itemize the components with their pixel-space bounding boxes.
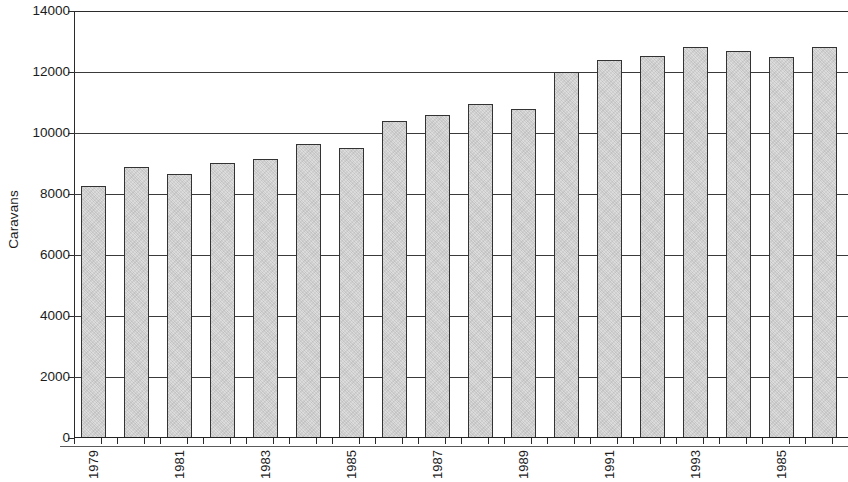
x-axis-tick-mark <box>273 438 274 444</box>
y-axis-title: Caravans <box>0 0 26 438</box>
x-axis-tick-label: 1985 <box>334 446 370 482</box>
bar <box>81 186 106 438</box>
x-axis-tick-label-text: 1989 <box>517 450 530 479</box>
x-axis-tick-marks <box>74 438 848 445</box>
x-axis-tick-label-text: 1985 <box>775 450 788 479</box>
bar <box>554 72 579 438</box>
bar <box>210 163 235 438</box>
bar <box>339 148 364 438</box>
x-axis-tick-mark <box>832 438 833 444</box>
bar <box>683 47 708 438</box>
plot-area <box>74 11 848 438</box>
x-axis-tick-mark <box>418 438 419 444</box>
bars <box>74 11 848 438</box>
x-axis-tick-label: 1991 <box>592 446 628 482</box>
y-axis-tick-label: 12000 <box>32 65 70 79</box>
x-axis-tick-mark <box>719 438 720 444</box>
x-axis-tick-mark <box>445 438 446 444</box>
bar-chart: Caravans 0200040006000800010000120001400… <box>0 0 848 482</box>
x-axis-tick-mark <box>203 438 204 444</box>
bar <box>812 47 837 438</box>
x-axis-tick-label-text: 1985 <box>345 450 358 479</box>
x-axis-tick-mark <box>160 438 161 444</box>
y-axis-tick-label: 14000 <box>32 4 70 18</box>
bar <box>597 60 622 438</box>
x-axis-tick-label-text: 1993 <box>689 450 702 479</box>
x-axis-tick-label-text: 1991 <box>603 450 616 479</box>
bar <box>769 57 794 438</box>
x-axis-tick-label: 1993 <box>678 446 714 482</box>
x-axis-tick-mark <box>144 438 145 444</box>
x-axis-tick-label-text: 1983 <box>259 450 272 479</box>
x-axis-tick-mark <box>402 438 403 444</box>
bar <box>382 121 407 438</box>
x-axis-tick-label-text: 1981 <box>173 450 186 479</box>
x-axis-tick-mark <box>789 438 790 444</box>
y-axis-tick-label: 10000 <box>32 126 70 140</box>
x-axis-tick-mark <box>633 438 634 444</box>
bar <box>511 109 536 438</box>
x-axis-tick-mark <box>547 438 548 444</box>
x-axis-tick-mark <box>187 438 188 444</box>
x-axis-tick-mark <box>660 438 661 444</box>
x-axis-tick-mark <box>531 438 532 444</box>
x-axis-tick-label-text: 1979 <box>87 450 100 479</box>
x-axis-tick-label: 1979 <box>76 446 112 482</box>
x-axis-tick-mark <box>74 438 75 444</box>
x-axis-tick-mark <box>316 438 317 444</box>
bar <box>124 167 149 438</box>
y-axis-tick-labels: 02000400060008000100001200014000 <box>24 0 70 482</box>
y-axis-tick-label: 8000 <box>40 187 70 201</box>
y-axis-tick-label: 6000 <box>40 248 70 262</box>
x-axis-tick-mark <box>590 438 591 444</box>
x-axis-tick-mark <box>117 438 118 444</box>
x-axis-tick-mark <box>617 438 618 444</box>
x-axis-tick-mark <box>461 438 462 444</box>
x-axis-tick-mark <box>746 438 747 444</box>
x-axis-tick-label: 1989 <box>506 446 542 482</box>
x-axis-tick-mark <box>676 438 677 444</box>
bar <box>640 56 665 438</box>
x-axis-tick-label: 1987 <box>420 446 456 482</box>
y-axis-title-label: Caravans <box>6 190 21 249</box>
x-axis-tick-mark <box>289 438 290 444</box>
x-axis-tick-mark <box>375 438 376 444</box>
x-axis-tick-label-text: 1987 <box>431 450 444 479</box>
x-axis-tick-mark <box>805 438 806 444</box>
x-axis-tick-labels: 197919811983198519871989199119931985 <box>74 446 848 482</box>
x-axis-tick-mark <box>574 438 575 444</box>
y-axis-tick-label: 4000 <box>40 309 70 323</box>
x-axis-tick-label: 1985 <box>764 446 800 482</box>
x-axis-tick-mark <box>230 438 231 444</box>
bar <box>468 104 493 438</box>
x-axis-tick-mark <box>359 438 360 444</box>
x-axis-tick-mark <box>762 438 763 444</box>
x-axis-tick-mark <box>504 438 505 444</box>
x-axis-tick-mark <box>703 438 704 444</box>
x-axis-tick-mark <box>332 438 333 444</box>
bar <box>296 144 321 438</box>
x-axis-tick-label: 1983 <box>248 446 284 482</box>
bar <box>167 174 192 438</box>
bar <box>253 159 278 438</box>
x-axis-tick-mark <box>246 438 247 444</box>
y-axis-tick-label: 2000 <box>40 370 70 384</box>
x-axis-tick-label: 1981 <box>162 446 198 482</box>
bar <box>425 115 450 438</box>
x-axis-tick-mark <box>101 438 102 444</box>
x-axis-tick-mark <box>488 438 489 444</box>
bar <box>726 51 751 438</box>
